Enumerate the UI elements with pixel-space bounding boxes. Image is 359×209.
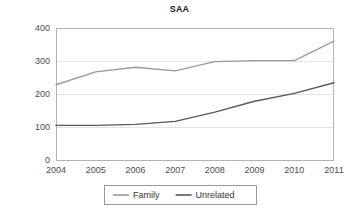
y-axis-tick-labels: 0100200300400 xyxy=(35,23,50,165)
data-series xyxy=(56,41,334,125)
x-axis-tick-label: 2008 xyxy=(205,165,225,175)
x-axis-tick-label: 2009 xyxy=(245,165,265,175)
chart-container: SAA 0100200300400 2004200520062007200820… xyxy=(0,0,359,209)
x-axis-tick-label: 2005 xyxy=(86,165,106,175)
x-axis-tick-label: 2004 xyxy=(46,165,66,175)
legend-label-family: Family xyxy=(133,190,160,200)
x-axis-tick-label: 2006 xyxy=(125,165,145,175)
y-axis-tick-label: 400 xyxy=(35,23,50,33)
chart-legend: FamilyUnrelated xyxy=(105,186,257,205)
y-axis-tick-label: 300 xyxy=(35,56,50,66)
y-axis-tick-label: 0 xyxy=(45,155,50,165)
line-chart-plot: 0100200300400 20042005200620072008200920… xyxy=(0,0,359,209)
x-axis-tick-label: 2010 xyxy=(284,165,304,175)
legend-label-unrelated: Unrelated xyxy=(196,190,235,200)
series-line-unrelated xyxy=(56,83,334,126)
series-line-family xyxy=(56,41,334,85)
x-axis-tick-labels: 20042005200620072008200920102011 xyxy=(46,165,344,175)
y-axis-tick-label: 100 xyxy=(35,122,50,132)
x-axis-tick-label: 2007 xyxy=(165,165,185,175)
x-axis-tick-label: 2011 xyxy=(324,165,343,175)
y-axis-tick-label: 200 xyxy=(35,89,50,99)
